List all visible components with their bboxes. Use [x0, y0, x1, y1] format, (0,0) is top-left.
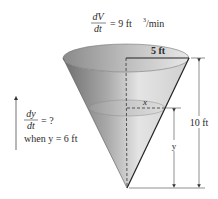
dy-numerator: dy — [26, 108, 36, 119]
dV-equals: = 9 ft — [110, 18, 132, 29]
dy-equals: = ? — [41, 115, 54, 126]
water-radius-label: x — [142, 97, 147, 107]
conical-tank-diagram: dV dt = 9 ft 3 /min 5 ft x 10 ft y dy dt… — [0, 0, 218, 199]
cone-body — [63, 58, 189, 188]
water-height-label: y — [172, 141, 177, 151]
height-label: 10 ft — [190, 117, 209, 128]
condition-text: when y = 6 ft — [24, 133, 78, 144]
radius-label: 5 ft — [151, 45, 166, 56]
dy-denominator: dt — [27, 120, 35, 131]
dV-denominator: dt — [94, 23, 102, 34]
dV-numerator: dV — [92, 11, 105, 22]
dV-unit: /min — [146, 18, 164, 29]
